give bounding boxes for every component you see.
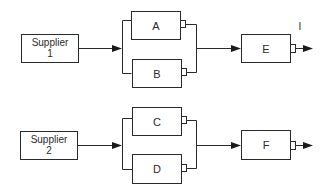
arrowhead-icon: [112, 142, 122, 149]
split-bus-2: [123, 119, 133, 170]
output-port-icon: [181, 21, 186, 28]
block-a-label: A: [152, 20, 160, 32]
block-c-label: C: [153, 116, 161, 128]
arrowhead-icon: [231, 142, 241, 149]
block-e: E: [242, 35, 296, 63]
output-port-icon: [291, 142, 296, 150]
group-1: Supplier 1 A B E I: [22, 12, 314, 88]
block-e-label: E: [262, 43, 269, 55]
block-f: F: [242, 131, 296, 160]
group-2: Supplier 2 C D F: [21, 108, 314, 184]
supplier-1-block: Supplier 1: [22, 35, 79, 63]
output-port-icon: [291, 45, 296, 53]
merge-bus-1: [186, 25, 197, 73]
supplier-2-label-line1: Supplier: [31, 134, 68, 145]
block-b: B: [133, 60, 187, 88]
arrowhead-icon: [112, 45, 122, 52]
block-c: C: [133, 108, 187, 136]
output-port-icon: [182, 69, 187, 76]
arrowhead-icon: [231, 45, 241, 52]
merge-bus-2: [187, 121, 197, 169]
arrowhead-icon: [303, 142, 313, 149]
block-diagram: Supplier 1 A B E I: [0, 0, 331, 194]
supplier-2-block: Supplier 2: [21, 132, 78, 160]
supplier-1-label-line2: 1: [47, 48, 53, 59]
block-f-label: F: [263, 139, 270, 151]
output-port-icon: [182, 165, 187, 172]
output-marker-i: I: [299, 21, 302, 32]
block-b-label: B: [153, 68, 160, 80]
split-bus-1: [123, 21, 132, 74]
supplier-2-label-line2: 2: [46, 145, 52, 156]
arrowhead-icon: [303, 45, 313, 52]
output-port-icon: [182, 117, 187, 124]
block-a: A: [132, 12, 186, 40]
block-d-label: D: [153, 163, 161, 175]
supplier-1-label-line1: Supplier: [32, 37, 69, 48]
block-d: D: [133, 155, 187, 184]
